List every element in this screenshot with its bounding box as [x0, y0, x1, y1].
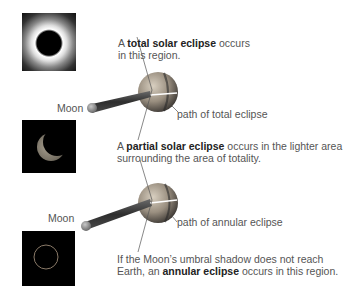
moon-bottom — [81, 221, 91, 231]
moon-top — [87, 103, 97, 113]
partial-eclipse-caption: A partial solar eclipse occurs in the li… — [117, 140, 342, 152]
total-eclipse-caption: A total solar eclipse occurs — [118, 37, 250, 49]
total-eclipse-caption-line2: in this region. — [118, 49, 180, 61]
moon-label-top: Moon — [57, 102, 83, 114]
moon-label-bottom: Moon — [48, 212, 74, 224]
path-total-label: path of total eclipse — [177, 108, 267, 120]
annular-eclipse-caption: Earth, an annular eclipse occurs in this… — [117, 265, 338, 277]
partial-eclipse-caption-line2: surrounding the area of totality. — [117, 152, 261, 164]
path-annular-label: path of annular eclipse — [177, 216, 283, 228]
annular-eclipse-caption-line1: If the Moon’s umbral shadow does not rea… — [117, 253, 323, 265]
